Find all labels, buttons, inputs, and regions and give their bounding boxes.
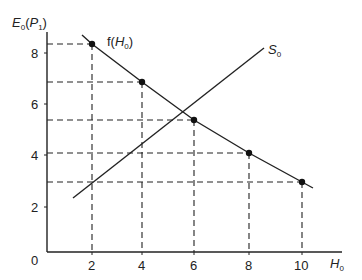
f-h0-points (89, 41, 305, 185)
x-tick-label: 2 (88, 258, 95, 273)
s0-line (73, 48, 264, 198)
x-tick-label: 4 (138, 258, 145, 273)
x-tick-label: 6 (190, 258, 197, 273)
y-tick-label: 2 (31, 200, 38, 215)
origin-label: 0 (31, 253, 38, 268)
x-axis-title: H0 (330, 256, 344, 273)
s0-label: S0 (268, 42, 282, 59)
y-axis-title: E0(P1) (12, 15, 47, 32)
x-tick-label: 10 (294, 258, 308, 273)
x-tick-label: 8 (245, 258, 252, 273)
chart-canvas: 8 6 4 2 0 2 4 6 8 10 E0(P1) H0 f(H0) S0 (0, 0, 362, 280)
y-tick-label: 4 (31, 148, 38, 163)
y-tick-label: 8 (31, 46, 38, 61)
f-h0-label: f(H0) (107, 34, 133, 51)
projection-lines (47, 44, 302, 252)
y-tick-label: 6 (31, 97, 38, 112)
